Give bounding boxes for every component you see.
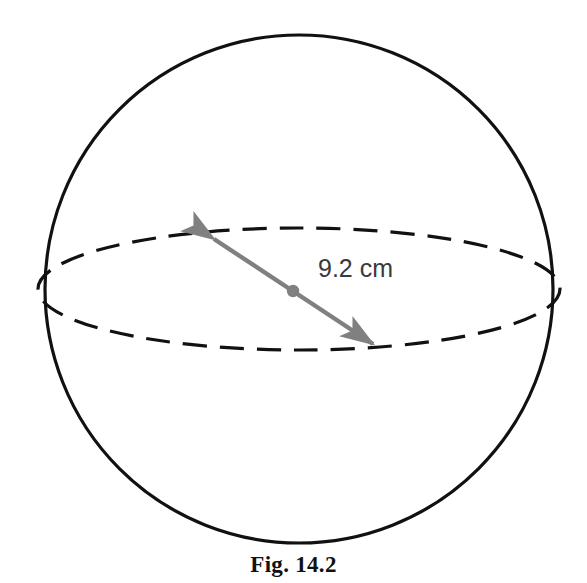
sphere-diagram-svg <box>0 0 587 583</box>
sphere-center-dot <box>287 285 299 297</box>
sphere-figure: 9.2 cm Fig. 14.2 <box>0 0 587 583</box>
diameter-measurement-label: 9.2 cm <box>318 256 393 281</box>
sphere-outline-circle <box>45 35 553 543</box>
equator-dashed-ellipse <box>38 228 560 350</box>
figure-caption: Fig. 14.2 <box>0 552 587 577</box>
